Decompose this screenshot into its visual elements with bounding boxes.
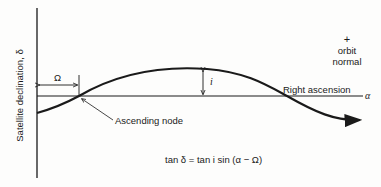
omega-label: Ω: [54, 73, 61, 83]
alpha-axis-symbol: α: [365, 91, 370, 101]
ascending-node-label: Ascending node: [115, 116, 183, 126]
inclination-label: i: [210, 77, 213, 87]
orbit-normal-label: + orbit normal: [327, 34, 367, 67]
y-axis-label: Satellite declination, δ: [14, 31, 25, 161]
formula: tan δ = tan i sin (α − Ω): [165, 154, 262, 165]
orbit-normal-plus-icon: +: [327, 34, 367, 45]
right-ascension-label: Right ascension: [283, 85, 351, 95]
node-leader-line: [82, 99, 113, 120]
